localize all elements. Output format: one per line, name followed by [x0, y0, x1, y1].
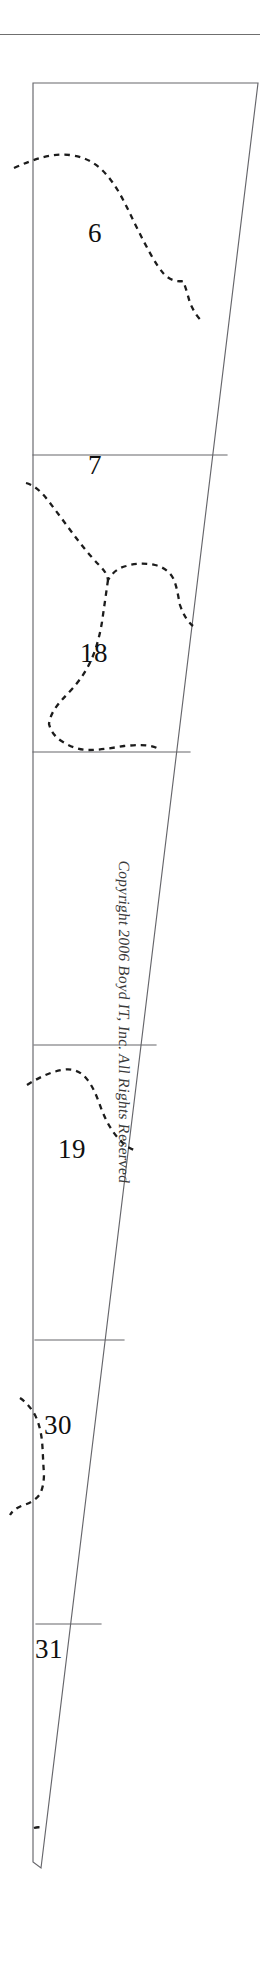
parcel-strip-face — [33, 83, 258, 1868]
parcel-label-18: 18 — [80, 640, 108, 667]
parcel-label-30: 30 — [44, 1412, 72, 1439]
parcel-label-31: 31 — [35, 1636, 63, 1663]
plat-page: 6 7 18 19 30 31 Copyright 2006 Boyd IT, … — [0, 0, 260, 1963]
parcel-label-7: 7 — [88, 452, 102, 479]
parcel-label-6: 6 — [88, 220, 102, 247]
copyright-notice: Copyright 2006 Boyd IT, Inc. All Rights … — [115, 860, 133, 1185]
parcel-label-19: 19 — [58, 1136, 86, 1163]
